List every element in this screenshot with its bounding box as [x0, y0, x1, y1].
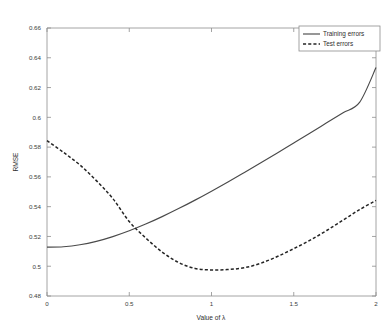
- legend[interactable]: Training errors Test errors: [299, 26, 380, 51]
- y-tick-label: 0.54: [29, 203, 42, 210]
- chart-canvas: 0.480.50.520.540.560.580.60.620.640.66 0…: [0, 0, 390, 326]
- y-tick-label: 0.66: [29, 24, 42, 31]
- x-tick-label: 0.5: [125, 300, 134, 307]
- y-axis-label: RMSE: [12, 152, 19, 172]
- x-tick-label: 1: [210, 300, 214, 307]
- plot-background: [47, 28, 376, 296]
- legend-label-test-errors: Test errors: [323, 40, 353, 47]
- y-tick-label: 0.58: [29, 143, 42, 150]
- x-axis-label: Value of λ: [197, 314, 227, 321]
- y-tick-label: 0.56: [29, 173, 42, 180]
- figure-container: 0.480.50.520.540.560.580.60.620.640.66 0…: [0, 0, 390, 326]
- x-tick-label: 1.5: [289, 300, 298, 307]
- y-tick-label: 0.48: [29, 292, 42, 299]
- legend-label-training-errors: Training errors: [323, 30, 364, 38]
- y-tick-label: 0.5: [32, 263, 41, 270]
- y-tick-label: 0.6: [32, 114, 41, 121]
- y-tick-label: 0.64: [29, 54, 42, 61]
- y-tick-label: 0.62: [29, 84, 42, 91]
- x-tick-label: 2: [374, 300, 378, 307]
- y-tick-label: 0.52: [29, 233, 42, 240]
- x-tick-label: 0: [45, 300, 49, 307]
